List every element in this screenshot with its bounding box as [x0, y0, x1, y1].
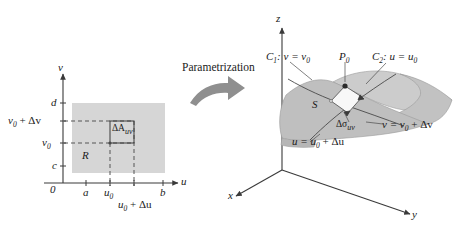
uv-plane-group: [44, 74, 178, 186]
tick-label-u0: u0: [104, 187, 113, 201]
patch-sigma-sub: uv: [347, 123, 355, 132]
region-R-label: R: [82, 150, 89, 161]
tick-label-v0: v0: [42, 137, 51, 151]
surface-S-label: S: [312, 99, 318, 110]
point-P0-dot: [342, 83, 347, 88]
area-element-label: ΔAuv: [112, 124, 133, 136]
origin-label: 0: [50, 184, 56, 195]
tick-label-u0-du-rest: + Δu: [127, 198, 151, 210]
parametrization-arrow: [190, 76, 245, 106]
tick-label-c: c: [52, 160, 57, 171]
parametrization-label: Parametrization: [182, 61, 255, 73]
patch-corner-dot: [330, 100, 333, 103]
edge-v-rest: + Δv: [408, 118, 432, 130]
edge-u-rest: + Δu: [320, 135, 344, 147]
edge-v-label: v = v0 + Δv: [382, 119, 433, 133]
tick-label-v0-sub: 0: [47, 142, 51, 151]
tick-label-b: b: [160, 187, 166, 198]
point-P0-sub: 0: [346, 56, 350, 65]
curve-C1-rest-sub: 0: [306, 56, 310, 65]
edge-u-base: u = u: [292, 135, 316, 147]
curve-C2-label: C2: u = u0: [372, 51, 417, 65]
surface-parametrization-figure: v u 0 d c a b u0 u0 + Δu v0 v0 + Δv R ΔA…: [0, 0, 472, 236]
curve-C2-rest: : u = u: [383, 50, 413, 62]
u-axis-label: u: [181, 176, 187, 187]
patch-sigma-label: Δσuv: [336, 120, 355, 132]
tick-label-v0-dv-rest: + Δv: [17, 114, 41, 126]
x-axis-line: [236, 170, 282, 196]
area-element-delta: ΔA: [112, 123, 125, 133]
uv-corner-point: [108, 141, 111, 144]
tick-label-d: d: [51, 97, 57, 108]
x-axis-label: x: [228, 190, 233, 201]
tick-label-u0-sub: 0: [110, 192, 114, 201]
area-element-sub: uv: [125, 127, 133, 136]
edge-v-base: v = v: [382, 118, 405, 130]
tick-label-a: a: [83, 187, 89, 198]
curve-C1-label: C1: v = v0: [266, 51, 310, 65]
y-axis-line: [282, 170, 410, 214]
curve-C1-rest: : v = v: [277, 50, 306, 62]
point-P0-label: P0: [339, 51, 349, 65]
patch-sigma-base: Δσ: [336, 119, 347, 129]
point-P0-base: P: [339, 50, 346, 62]
curve-C2-rest-sub: 0: [413, 56, 417, 65]
tick-label-u0-du: u0 + Δu: [118, 199, 152, 213]
y-axis-label: y: [412, 209, 417, 220]
v-axis-label: v: [58, 62, 63, 73]
z-axis-label: z: [276, 13, 280, 24]
edge-u-label: u = u0 + Δu: [292, 136, 344, 150]
region-R-fill: [72, 103, 165, 173]
tick-label-v0-dv: v0 + Δv: [8, 115, 41, 129]
